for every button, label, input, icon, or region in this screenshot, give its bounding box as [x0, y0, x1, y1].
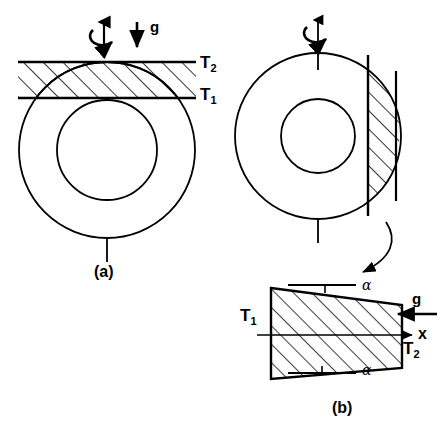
panel-b-detail-trapezoid [271, 288, 402, 379]
detail-gravity-label: g [412, 291, 421, 306]
panel-a-rotation-axis-icon [90, 22, 112, 58]
detail-T2-subscript: 2 [413, 348, 419, 360]
panel-b-inner-circle [281, 99, 355, 173]
detail-T2-letter: T [403, 339, 413, 358]
figure-vector-graphics [0, 0, 448, 426]
detail-T1-letter: T [240, 306, 250, 325]
panel-a-T1-subscript: 1 [210, 94, 216, 106]
angle-bottom-label: α [362, 363, 371, 377]
angle-top-label: α [362, 278, 371, 292]
detail-temperature-left-label: T1 [240, 307, 257, 327]
panel-a-gravity-label: g [150, 19, 159, 34]
panel-b-caption: (b) [332, 400, 352, 416]
detail-temperature-right-label: T2 [403, 340, 420, 360]
panel-a-T2-letter: T [200, 53, 210, 72]
panel-b-hatched-slab [368, 50, 399, 224]
panel-b-leader-arrow-icon [363, 222, 392, 272]
panel-a-temperature-outer-label: T2 [200, 54, 217, 74]
panel-a-inner-circle [57, 100, 157, 200]
detail-T1-subscript: 1 [250, 315, 256, 327]
panel-a-T1-letter: T [200, 85, 210, 104]
panel-a-temperature-inner-label: T1 [200, 86, 217, 106]
panel-b-rotation-axis-icon [304, 20, 326, 70]
figure-container: g T2 T1 (a) α α T1 T2 g x (b) [0, 0, 448, 426]
panel-a-caption: (a) [94, 264, 114, 280]
detail-x-axis-label: x [418, 326, 427, 342]
panel-a-T2-subscript: 2 [210, 62, 216, 74]
